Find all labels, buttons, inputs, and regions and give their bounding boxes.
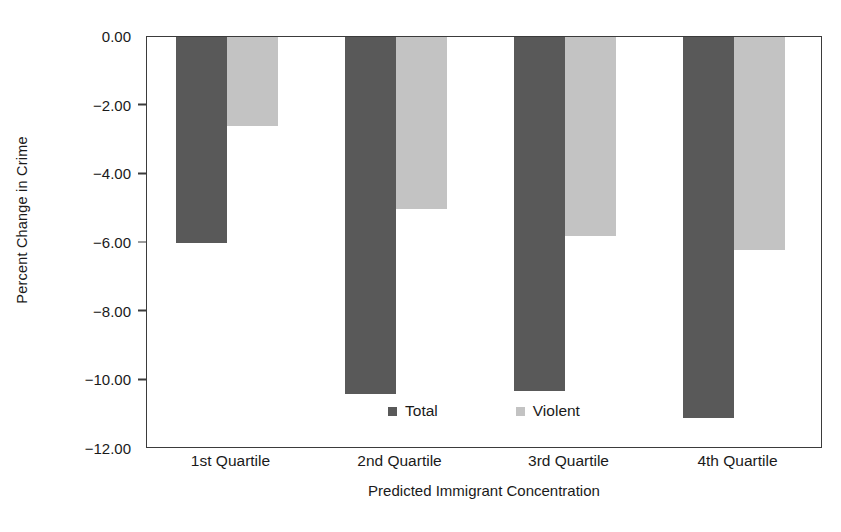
bars-container (147, 37, 821, 447)
chart-legend: TotalViolent (146, 398, 822, 424)
legend-item-total: Total (388, 402, 438, 420)
bar-group (654, 37, 823, 447)
y-axis-tick: −4.00 (93, 165, 146, 182)
y-axis-ticks: 0.00−2.00−4.00−6.00−8.00−10.00−12.00 (0, 36, 146, 448)
y-axis-tick-label: −12.00 (85, 440, 138, 457)
legend-label-total: Total (405, 402, 438, 420)
bar-chart-figure: Percent Change in Crime 0.00−2.00−4.00−6… (0, 0, 841, 532)
y-axis-tick: −8.00 (93, 302, 146, 319)
x-axis-ticks: 1st Quartile2nd Quartile3rd Quartile4th … (146, 452, 822, 476)
bar-violent-1 (227, 37, 278, 126)
x-axis-tick-label: 1st Quartile (191, 452, 270, 470)
legend-swatch-total (388, 407, 397, 416)
y-axis-tick-mark (138, 379, 146, 381)
y-axis-tick-mark (138, 173, 146, 175)
y-axis-tick: 0.00 (102, 28, 146, 45)
x-axis-tick-label: 4th Quartile (697, 452, 777, 470)
y-axis-tick: −12.00 (85, 440, 146, 457)
bar-violent-4 (734, 37, 785, 250)
plot-area (146, 36, 822, 448)
y-axis-tick-label: −6.00 (93, 234, 138, 251)
y-axis-tick-label: −10.00 (85, 371, 138, 388)
bar-violent-3 (565, 37, 616, 236)
bar-violent-2 (396, 37, 447, 209)
bar-total-2 (345, 37, 396, 394)
y-axis-tick: −6.00 (93, 234, 146, 251)
legend-item-violent: Violent (516, 402, 580, 420)
y-axis-tick-label: −4.00 (93, 165, 138, 182)
bar-total-4 (683, 37, 734, 418)
legend-swatch-violent (516, 407, 525, 416)
bar-group (316, 37, 485, 447)
y-axis-tick-label: −8.00 (93, 302, 138, 319)
y-axis-tick-label: −2.00 (93, 96, 138, 113)
y-axis-tick-mark (138, 241, 146, 243)
y-axis-tick-mark (138, 104, 146, 106)
bar-total-3 (514, 37, 565, 391)
legend-label-violent: Violent (533, 402, 580, 420)
x-axis-tick-label: 3rd Quartile (528, 452, 609, 470)
bar-total-1 (176, 37, 227, 243)
bar-group (147, 37, 316, 447)
y-axis-tick-mark (138, 310, 146, 312)
x-axis-title: Predicted Immigrant Concentration (146, 482, 822, 499)
y-axis-tick: −10.00 (85, 371, 146, 388)
y-axis-tick: −2.00 (93, 96, 146, 113)
x-axis-tick-label: 2nd Quartile (357, 452, 441, 470)
bar-group (485, 37, 654, 447)
y-axis-tick-label: 0.00 (102, 28, 138, 45)
